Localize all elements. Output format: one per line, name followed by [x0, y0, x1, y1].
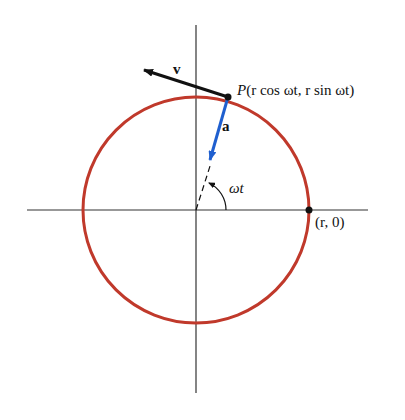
start-point-label: (r, 0): [315, 215, 344, 230]
point-P-prefix: P: [237, 82, 246, 98]
velocity-label: v: [173, 62, 181, 77]
angle-arc: [209, 183, 226, 210]
circular-motion-diagram: v a P(r cos ωt, r sin ωt) ωt (r, 0): [0, 0, 405, 420]
point-P-coords: (r cos ωt, r sin ωt): [246, 82, 354, 98]
start-point-dot: [306, 207, 313, 214]
angle-label: ωt: [229, 181, 244, 196]
point-P-dot: [225, 94, 232, 101]
point-P-label: P(r cos ωt, r sin ωt): [237, 83, 354, 98]
diagram-svg: [0, 0, 405, 420]
acceleration-label: a: [222, 119, 230, 134]
radius-dashed-line: [196, 163, 211, 210]
velocity-vector: [144, 70, 228, 97]
